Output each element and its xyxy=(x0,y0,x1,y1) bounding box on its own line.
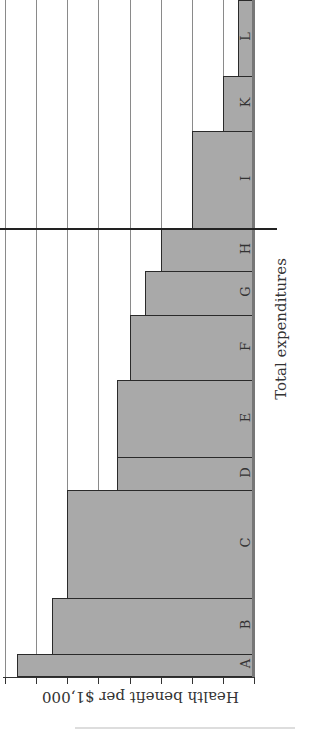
axis-tick xyxy=(98,677,99,684)
category-label: B xyxy=(238,618,253,632)
bar-c xyxy=(67,490,254,599)
category-label: I xyxy=(238,171,253,185)
axis-tick xyxy=(192,677,193,684)
gridline xyxy=(36,0,37,678)
budget-cutoff-line xyxy=(0,228,277,230)
gridline xyxy=(5,0,6,678)
footer-rule xyxy=(75,727,295,729)
axis-tick xyxy=(36,677,37,684)
bar-a xyxy=(17,654,254,677)
x-axis-title: Total expenditures xyxy=(272,258,290,400)
value-axis-baseline xyxy=(252,0,255,678)
category-label: G xyxy=(238,285,253,299)
axis-tick xyxy=(5,677,6,684)
axis-tick xyxy=(161,677,162,684)
category-label: D xyxy=(238,465,253,479)
category-label: H xyxy=(238,241,253,255)
bar-b xyxy=(52,598,254,655)
chart: ABCDEFGHIKL Total expenditures Health be… xyxy=(0,0,318,732)
category-label: E xyxy=(238,410,253,424)
category-label: C xyxy=(238,536,253,550)
category-label: A xyxy=(238,657,253,671)
axis-tick xyxy=(254,677,255,684)
bar-f xyxy=(130,315,255,381)
category-label: L xyxy=(238,30,253,44)
category-label: F xyxy=(238,339,253,353)
bar-d xyxy=(117,457,254,491)
y-axis-title: Health benefit per $1,000 xyxy=(42,688,239,706)
category-label: K xyxy=(238,95,253,109)
axis-tick xyxy=(67,677,68,684)
axis-tick xyxy=(223,677,224,684)
axis-tick xyxy=(130,677,131,684)
bar-e xyxy=(117,380,254,458)
